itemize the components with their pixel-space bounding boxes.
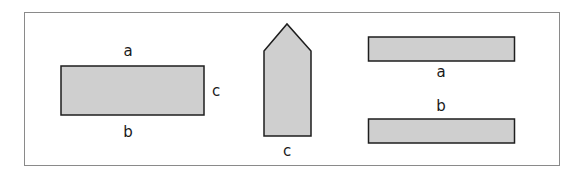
strip-b-shape — [369, 119, 515, 143]
house-label-bottom: c — [283, 142, 291, 160]
rectangle-label-top: a — [123, 42, 132, 60]
strip-a-label: a — [436, 63, 445, 81]
rectangle-label-right: c — [212, 82, 220, 100]
rectangle-label-bottom: b — [123, 123, 133, 141]
strip-b-label: b — [436, 97, 446, 115]
rectangle-shape — [61, 66, 204, 115]
strip-a-shape — [369, 37, 515, 61]
diagram: a c b c a b — [0, 0, 579, 173]
